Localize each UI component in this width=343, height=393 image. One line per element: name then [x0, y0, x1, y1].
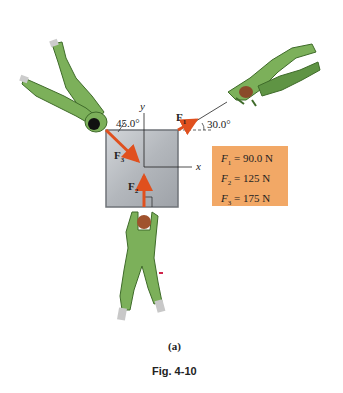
legend-row-f3: F3 = 175 N	[221, 191, 288, 211]
figure-caption: Fig. 4-10	[152, 365, 197, 377]
skydiver-top-left	[19, 39, 107, 132]
legend-row-f2: F2 = 125 N	[221, 171, 288, 191]
skydiver-top-right	[228, 44, 320, 106]
free-body-diagram: y x 45.0° 30.0° F1 F2 F3 F1 = 90.0 N F2 …	[0, 0, 343, 393]
skydiver-bottom	[117, 212, 165, 321]
angle-label-f1: 30.0°	[207, 118, 231, 130]
legend-row-f1: F1 = 90.0 N	[221, 151, 288, 171]
force-label-f2: F2	[128, 180, 138, 195]
subfigure-label: (a)	[168, 340, 181, 352]
force-label-f1: F1	[176, 111, 186, 126]
force-magnitudes-legend: F1 = 90.0 N F2 = 125 N F3 = 175 N	[212, 146, 288, 206]
angle-arc-30	[202, 123, 204, 130]
angle-label-f3: 45.0°	[116, 117, 140, 129]
y-axis-label: y	[140, 100, 145, 112]
diagram-graphic	[0, 0, 343, 393]
x-axis-label: x	[196, 160, 201, 172]
force-label-f3: F3	[114, 149, 124, 164]
